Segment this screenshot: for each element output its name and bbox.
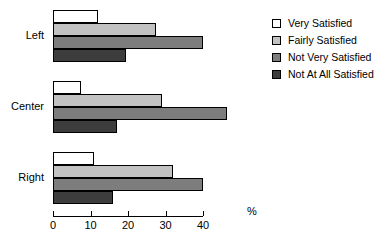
bar-row (53, 191, 233, 204)
category-label: Center (11, 101, 44, 112)
legend-swatch-icon (272, 19, 281, 28)
bar-row (53, 81, 233, 94)
bar (53, 178, 203, 191)
legend-swatch-icon (272, 70, 281, 79)
bar-row (53, 49, 233, 62)
legend-item[interactable]: Fairly Satisfied (272, 33, 374, 48)
bar (53, 36, 203, 49)
bar (53, 94, 162, 107)
legend-item[interactable]: Not Very Satisfied (272, 50, 374, 65)
x-axis: 010203040 (53, 216, 203, 217)
x-axis-tick (166, 211, 167, 216)
bar (53, 81, 81, 94)
bar (53, 49, 126, 62)
bar (53, 120, 117, 133)
legend-swatch-icon (272, 36, 281, 45)
legend-item[interactable]: Very Satisfied (272, 16, 374, 31)
bar-row (53, 94, 233, 107)
x-axis-tick (203, 211, 204, 216)
bar-row (53, 23, 233, 36)
x-axis-tick (53, 211, 54, 216)
bar-group: Center (53, 81, 233, 133)
x-axis-tick (128, 211, 129, 216)
bar (53, 152, 94, 165)
plot-area: LeftCenterRight (53, 10, 233, 210)
legend-label: Not Very Satisfied (288, 52, 371, 63)
bar (53, 23, 156, 36)
legend-item[interactable]: Not At All Satisfied (272, 67, 374, 82)
x-axis-unit-label: % (247, 206, 257, 217)
bar-row (53, 36, 233, 49)
legend-label: Very Satisfied (288, 18, 352, 29)
bar (53, 10, 98, 23)
bar-row (53, 120, 233, 133)
bar (53, 165, 173, 178)
bar-row (53, 165, 233, 178)
legend-label: Not At All Satisfied (288, 69, 374, 80)
bar (53, 191, 113, 204)
bar-row (53, 152, 233, 165)
legend-swatch-icon (272, 53, 281, 62)
bar-row (53, 107, 233, 120)
x-axis-tick-label: 0 (50, 220, 56, 231)
bar (53, 107, 227, 120)
bar-group: Right (53, 152, 233, 204)
x-axis-tick-label: 30 (159, 220, 171, 231)
x-axis-tick-label: 40 (197, 220, 209, 231)
bar-row (53, 10, 233, 23)
x-axis-tick-label: 20 (122, 220, 134, 231)
x-axis-tick (91, 211, 92, 216)
x-axis-tick-label: 10 (84, 220, 96, 231)
legend-label: Fairly Satisfied (288, 35, 357, 46)
legend: Very SatisfiedFairly SatisfiedNot Very S… (272, 16, 374, 84)
bar-chart: LeftCenterRight 010203040 % Very Satisfi… (0, 0, 391, 249)
category-label: Left (26, 30, 44, 41)
bar-row (53, 178, 233, 191)
category-label: Right (18, 172, 44, 183)
bar-group: Left (53, 10, 233, 62)
